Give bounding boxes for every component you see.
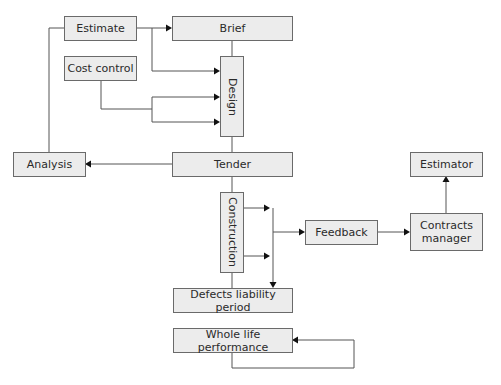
edge-costcontrol-design-b <box>152 97 214 122</box>
node-label: Whole life performance <box>174 328 292 354</box>
node-label: Estimate <box>76 22 125 35</box>
node-brief: Brief <box>172 16 293 41</box>
node-label: Feedback <box>315 226 367 239</box>
node-analysis: Analysis <box>13 152 86 177</box>
node-label: Defects liability period <box>174 288 292 314</box>
node-feedback: Feedback <box>305 220 378 245</box>
node-label: Analysis <box>27 158 72 171</box>
node-estimator: Estimator <box>410 152 483 177</box>
node-label: Brief <box>220 22 246 35</box>
node-label: Design <box>226 78 239 116</box>
node-tender: Tender <box>172 152 293 177</box>
arrowhead-icon <box>264 253 270 260</box>
arrowhead-icon <box>264 205 270 212</box>
node-whole-life-performance: Whole life performance <box>173 328 293 353</box>
edge-analysis-estimate <box>49 28 64 152</box>
node-defects-liability-period: Defects liability period <box>173 288 293 313</box>
node-label: Estimator <box>420 158 473 171</box>
node-label: Construction <box>226 197 239 267</box>
node-design: Design <box>220 56 244 137</box>
node-cost-control: Cost control <box>64 56 137 81</box>
node-construction: Construction <box>220 192 244 273</box>
edge-costcontrol-design <box>101 80 152 109</box>
node-estimate: Estimate <box>64 16 137 41</box>
node-label: Tender <box>214 158 251 171</box>
node-label: Cost control <box>67 62 133 75</box>
node-label: Contracts manager <box>417 219 477 245</box>
node-contracts-manager: Contracts manager <box>410 213 483 251</box>
